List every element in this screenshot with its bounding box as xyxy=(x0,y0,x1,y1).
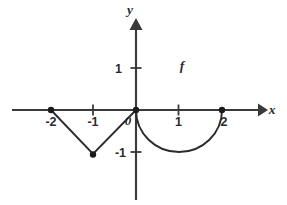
marker-origin xyxy=(133,107,139,113)
function-label: f xyxy=(180,58,186,73)
y-tick-label-1: 1 xyxy=(115,62,122,76)
graph-canvas: x y -2 -1 1 2 1 -1 0 xyxy=(0,0,287,205)
marker-minus-1-minus-1 xyxy=(90,151,96,157)
y-axis-arrowhead xyxy=(130,18,143,30)
y-axis: y xyxy=(125,2,143,200)
y-axis-label: y xyxy=(125,2,134,17)
x-tick-label-1: 1 xyxy=(175,115,182,129)
x-axis-arrowhead xyxy=(258,104,268,117)
marker-2-0 xyxy=(219,107,225,113)
x-tick-label-minus-1: -1 xyxy=(87,115,98,129)
function-graph-figure: x y -2 -1 1 2 1 -1 0 xyxy=(0,0,287,205)
x-tick-label-minus-2: -2 xyxy=(45,115,56,129)
x-axis-label: x xyxy=(268,102,276,117)
y-tick-label-minus-1: -1 xyxy=(115,146,126,160)
marker-minus-2-0 xyxy=(48,107,54,113)
